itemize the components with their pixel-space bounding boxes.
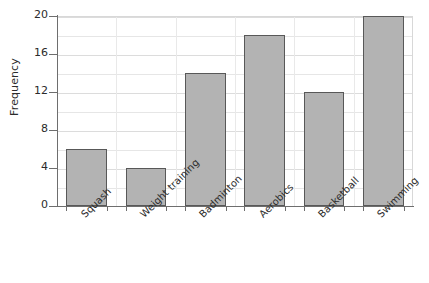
bar-badminton bbox=[185, 73, 225, 206]
x-axis-tick-2-1 bbox=[226, 206, 227, 211]
y-axis-tick-0 bbox=[49, 206, 57, 207]
x-axis-tick-4-1 bbox=[344, 206, 345, 211]
x-axis-tick-2-0 bbox=[185, 206, 186, 211]
x-axis-tick-1-0 bbox=[126, 206, 127, 211]
x-axis-tick-5-0 bbox=[363, 206, 364, 211]
y-axis-line bbox=[57, 15, 58, 207]
bar-chart: Frequency 048121620 SquashWeight trainin… bbox=[0, 0, 429, 283]
y-axis-tick-1 bbox=[49, 168, 57, 169]
y-axis-tick-4 bbox=[49, 54, 57, 55]
x-axis-tick-1-1 bbox=[166, 206, 167, 211]
y-axis-tick-label-4: 16 bbox=[4, 46, 48, 59]
x-axis-tick-3-1 bbox=[285, 206, 286, 211]
x-axis-tick-4-0 bbox=[304, 206, 305, 211]
x-axis-tick-0-1 bbox=[107, 206, 108, 211]
y-axis-tick-label-3: 12 bbox=[4, 84, 48, 97]
x-axis-line bbox=[57, 206, 414, 207]
x-axis-tick-0-0 bbox=[66, 206, 67, 211]
y-axis-tick-2 bbox=[49, 130, 57, 131]
gridline-vertical-1 bbox=[116, 17, 117, 206]
gridline-vertical-4 bbox=[294, 17, 295, 206]
y-axis-tick-label-2: 8 bbox=[4, 122, 48, 135]
x-axis-tick-5-1 bbox=[404, 206, 405, 211]
y-axis-tick-label-1: 4 bbox=[4, 160, 48, 173]
y-axis-tick-label-5: 20 bbox=[4, 8, 48, 21]
bar-swimming bbox=[363, 16, 403, 206]
x-axis-tick-3-0 bbox=[244, 206, 245, 211]
y-axis-tick-label-0: 0 bbox=[4, 198, 48, 211]
y-axis-tick-5 bbox=[49, 16, 57, 17]
bar-aerobics bbox=[244, 35, 284, 206]
y-axis-tick-3 bbox=[49, 92, 57, 93]
